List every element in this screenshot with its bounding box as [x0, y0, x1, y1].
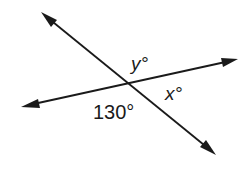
angle-label-x: x°	[164, 83, 183, 104]
line-a-arrowhead-lower-right-icon	[200, 140, 216, 155]
angle-label-130: 130°	[93, 101, 134, 123]
angle-label-y: y°	[129, 53, 149, 74]
line-b-arrowhead-right-icon	[221, 58, 238, 67]
intersecting-lines-diagram: y° x° 130°	[0, 0, 245, 181]
line-b-arrowhead-left-icon	[21, 99, 40, 108]
line-b-segment	[29, 61, 230, 105]
line-a-arrowhead-upper-left-icon	[41, 12, 57, 27]
